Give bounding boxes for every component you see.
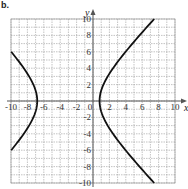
y-tick-label: 8 bbox=[87, 30, 92, 40]
x-tick-label: 10 bbox=[171, 102, 181, 112]
x-tick-label: 4 bbox=[124, 102, 129, 112]
x-tick-label: -6 bbox=[40, 102, 48, 112]
y-tick-label: 2 bbox=[87, 80, 92, 90]
x-tick-label: 2 bbox=[107, 102, 112, 112]
y-axis-label: y bbox=[84, 7, 90, 18]
y-tick-label: -8 bbox=[84, 162, 92, 172]
x-tick-label: 0 bbox=[88, 102, 93, 112]
y-axis-arrow bbox=[91, 9, 96, 15]
y-tick-label: -4 bbox=[84, 129, 92, 139]
x-axis-label: x bbox=[183, 102, 188, 113]
x-tick-label: 6 bbox=[140, 102, 145, 112]
x-tick-label: -2 bbox=[73, 102, 81, 112]
x-tick-label: -8 bbox=[24, 102, 32, 112]
hyperbola-graph: b. -10-8-6-4-20246810108642-2-4-6-8-10 y… bbox=[0, 0, 188, 189]
y-tick-label: -2 bbox=[84, 112, 92, 122]
y-tick-label: -10 bbox=[79, 178, 91, 188]
question-label: b. bbox=[1, 0, 9, 10]
y-tick-label: 4 bbox=[87, 63, 92, 73]
x-tick-label: -4 bbox=[56, 102, 64, 112]
x-tick-label: -10 bbox=[5, 102, 17, 112]
x-tick-label: 8 bbox=[156, 102, 161, 112]
y-tick-label: 6 bbox=[87, 47, 92, 57]
y-tick-label: -6 bbox=[84, 145, 92, 155]
